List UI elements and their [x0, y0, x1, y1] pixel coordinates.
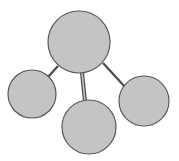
node-right-circle — [119, 76, 169, 126]
hub-spoke-diagram — [0, 0, 179, 161]
edge-hub-left — [48, 66, 58, 77]
node-left-circle — [8, 70, 56, 118]
node-bottom-circle — [62, 100, 116, 154]
node-hub-circle — [48, 11, 110, 73]
edge-hub-right — [103, 63, 125, 87]
nodes-group — [8, 11, 169, 154]
diagram-canvas — [0, 0, 179, 161]
